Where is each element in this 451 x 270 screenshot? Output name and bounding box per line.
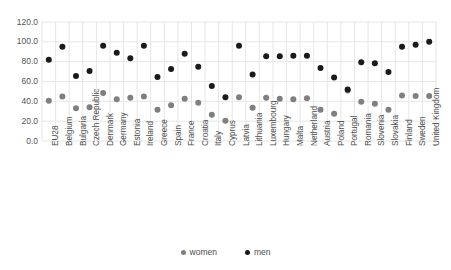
data-point[interactable] (372, 60, 378, 66)
y-tick-label: 80.0 (2, 57, 38, 66)
y-tick-label: 60.0 (2, 77, 38, 86)
data-point[interactable] (222, 94, 228, 100)
data-point[interactable] (277, 53, 283, 59)
data-point[interactable] (345, 86, 351, 92)
data-point[interactable] (154, 107, 160, 113)
data-point[interactable] (46, 98, 52, 104)
scatter-chart: 0.020.040.060.080.0100.0120.0 EU28Belgiu… (0, 0, 451, 270)
legend-label: women (190, 247, 217, 257)
data-point[interactable] (331, 75, 337, 81)
legend-item[interactable]: men (245, 246, 271, 257)
data-point[interactable] (114, 50, 120, 56)
legend-marker-icon (181, 250, 186, 255)
data-point[interactable] (209, 112, 215, 118)
legend-label: men (254, 247, 271, 257)
data-point[interactable] (59, 44, 65, 50)
data-point[interactable] (358, 59, 364, 65)
y-tick-label: 0.0 (2, 137, 38, 146)
plot-area (0, 0, 451, 270)
y-tick-label: 40.0 (2, 97, 38, 106)
data-point[interactable] (168, 102, 174, 108)
data-point[interactable] (59, 93, 65, 99)
data-point[interactable] (127, 95, 133, 101)
data-point[interactable] (141, 43, 147, 49)
data-point[interactable] (154, 74, 160, 80)
data-point[interactable] (114, 96, 120, 102)
data-point[interactable] (100, 90, 106, 96)
data-point[interactable] (385, 107, 391, 113)
chart-legend: womenmen (0, 246, 451, 257)
data-point[interactable] (304, 95, 310, 101)
data-point[interactable] (195, 100, 201, 106)
legend-marker-icon (245, 250, 250, 255)
data-point[interactable] (127, 55, 133, 61)
data-point[interactable] (222, 118, 228, 124)
data-point[interactable] (182, 96, 188, 102)
data-point[interactable] (182, 51, 188, 57)
data-point[interactable] (87, 104, 93, 110)
data-point[interactable] (304, 53, 310, 59)
data-point[interactable] (426, 39, 432, 45)
data-point[interactable] (399, 92, 405, 98)
data-point[interactable] (318, 65, 324, 71)
legend-item[interactable]: women (181, 246, 217, 257)
data-point[interactable] (195, 64, 201, 70)
data-point[interactable] (277, 96, 283, 102)
data-point[interactable] (236, 94, 242, 100)
data-point[interactable] (168, 66, 174, 72)
data-point[interactable] (399, 44, 405, 50)
data-point[interactable] (263, 53, 269, 59)
data-point[interactable] (209, 83, 215, 89)
data-point[interactable] (46, 57, 52, 63)
data-point[interactable] (413, 42, 419, 48)
data-point[interactable] (100, 43, 106, 49)
data-point[interactable] (372, 101, 378, 107)
y-axis: 0.020.040.060.080.0100.0120.0 (0, 0, 38, 270)
data-point[interactable] (426, 93, 432, 99)
data-point[interactable] (290, 96, 296, 102)
y-tick-label: 20.0 (2, 117, 38, 126)
y-tick-label: 100.0 (2, 37, 38, 46)
data-point[interactable] (318, 107, 324, 113)
data-point[interactable] (236, 43, 242, 49)
data-point[interactable] (413, 93, 419, 99)
data-point[interactable] (358, 99, 364, 105)
data-point[interactable] (141, 93, 147, 99)
data-point[interactable] (290, 53, 296, 59)
data-point[interactable] (73, 73, 79, 79)
data-point[interactable] (87, 68, 93, 74)
y-tick-label: 120.0 (2, 18, 38, 27)
data-point[interactable] (385, 69, 391, 75)
data-point[interactable] (331, 111, 337, 117)
data-point[interactable] (250, 105, 256, 111)
data-point[interactable] (250, 72, 256, 78)
data-point[interactable] (73, 105, 79, 111)
data-point[interactable] (263, 95, 269, 101)
